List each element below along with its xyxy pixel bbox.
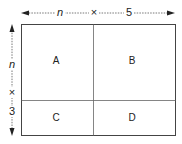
area-model-diagram: n × 5 n × 3 A B C D [0, 0, 182, 144]
arrow-down-icon [10, 128, 15, 136]
outer-rectangle [22, 25, 176, 136]
cell-c-label: C [52, 113, 59, 123]
width-operator: × [89, 7, 99, 18]
height-operator: × [7, 87, 17, 98]
area-model-svg [0, 0, 182, 144]
arrow-left-icon [21, 11, 29, 16]
cell-a-label: A [53, 56, 60, 66]
height-factor-3: 3 [7, 106, 17, 117]
arrow-right-icon [167, 11, 175, 16]
cell-d-label: D [128, 113, 135, 123]
width-factor-n: n [55, 7, 65, 18]
cell-b-label: B [129, 56, 136, 66]
arrow-up-icon [10, 24, 15, 32]
height-dimension-arrow [10, 24, 15, 136]
width-factor-5: 5 [124, 7, 134, 18]
height-factor-n: n [7, 59, 17, 70]
